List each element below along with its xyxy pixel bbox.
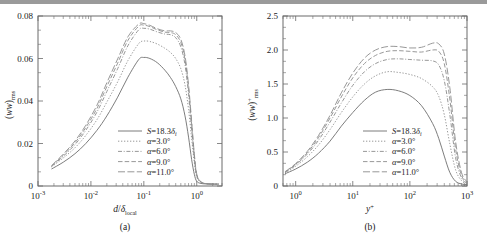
- data-curve-2: [52, 28, 219, 184]
- panel-b-xlabel: y+: [365, 203, 374, 214]
- data-curve-1: [52, 41, 219, 184]
- legend-label-4: α=11.0°: [147, 167, 174, 177]
- svg-text:(ww)+rms: (ww)+rms: [246, 88, 259, 120]
- y-tick-label: 0.06: [17, 54, 33, 64]
- y-tick-label: 0.02: [17, 139, 33, 149]
- y-tick-label: 2.0: [267, 45, 279, 55]
- legend-label-3: α=9.0°: [392, 157, 415, 167]
- x-tick-label: 100: [290, 189, 302, 201]
- y-tick-label: 2.5: [267, 11, 279, 21]
- x-tick-label: 10-1: [137, 189, 151, 201]
- panel-b-ylabel: (ww)+rms: [246, 88, 259, 120]
- y-tick-label: 0: [29, 181, 34, 191]
- x-tick-label: 101: [347, 189, 359, 201]
- panel-a-caption: (a): [120, 222, 131, 233]
- panel-a: 10-310-210-110000.020.040.060.08 S=18.3δ…: [0, 0, 243, 237]
- data-curve-0: [285, 89, 467, 184]
- panel-b: 10010110210300.51.01.52.02.5 S=18.3δiα=3…: [243, 0, 486, 237]
- x-tick-label: 103: [461, 189, 473, 201]
- legend-label-1: α=3.0°: [147, 136, 170, 146]
- panel-b-svg: 10010110210300.51.01.52.02.5 S=18.3δiα=3…: [243, 0, 487, 237]
- y-tick-label: 1.5: [267, 79, 279, 89]
- legend-label-4: α=11.0°: [392, 167, 419, 177]
- plot-frame: [283, 16, 467, 186]
- data-curve-2: [285, 59, 467, 183]
- legend-label-2: α=6.0°: [392, 146, 415, 156]
- figure-container: 10-310-210-110000.020.040.060.08 S=18.3δ…: [0, 0, 487, 237]
- panel-b-caption: (b): [364, 222, 375, 233]
- y-tick-label: 0.08: [17, 11, 33, 21]
- panel-a-svg: 10-310-210-110000.020.040.060.08 S=18.3δ…: [0, 0, 243, 237]
- y-tick-label: 0.5: [267, 147, 279, 157]
- y-tick-label: 0.04: [17, 96, 33, 106]
- y-tick-label: 0: [274, 181, 279, 191]
- svg-text:(ww)rms: (ww)rms: [4, 90, 16, 119]
- x-tick-label: 102: [404, 189, 416, 201]
- data-curve-0: [52, 57, 219, 184]
- y-tick-label: 1.0: [267, 113, 279, 123]
- data-curve-3: [285, 50, 467, 183]
- legend-label-3: α=9.0°: [147, 157, 170, 167]
- legend-label-2: α=6.0°: [147, 146, 170, 156]
- data-curve-1: [285, 72, 467, 184]
- x-tick-label: 10-2: [84, 189, 98, 201]
- panel-a-xlabel: d/δlocal: [113, 204, 137, 216]
- panel-a-ylabel: (ww)rms: [4, 90, 16, 119]
- x-tick-label: 100: [191, 189, 203, 201]
- legend-label-1: α=3.0°: [392, 136, 415, 146]
